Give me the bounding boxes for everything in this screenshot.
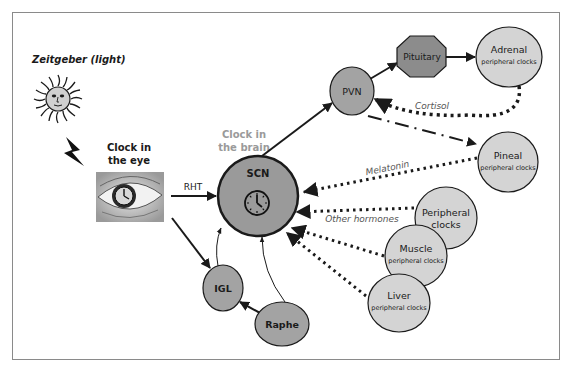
rht-label: RHT <box>184 182 203 192</box>
raphe-label: Raphe <box>265 319 299 330</box>
adrenal-node: Adrenal peripheral clocks <box>476 27 542 87</box>
pituitary-label: Pituitary <box>403 52 441 62</box>
circadian-diagram: Zeitgeber (light) Clock in the eye <box>0 0 571 377</box>
pituitary-node: Pituitary <box>397 36 446 77</box>
other-hormones-label: Other hormones <box>325 214 399 224</box>
peripheral-label-line2: clocks <box>431 219 460 230</box>
pineal-sublabel: peripheral clocks <box>480 164 536 172</box>
eye-clock-icon <box>96 172 164 222</box>
muscle-sublabel: peripheral clocks <box>388 257 444 265</box>
liver-label: Liver <box>387 290 410 301</box>
igl-label: IGL <box>214 283 231 294</box>
pineal-node: Pineal peripheral clocks <box>478 132 538 192</box>
clock-brain-label-line2: the brain <box>218 142 270 153</box>
zeitgeber-label: Zeitgeber (light) <box>31 54 126 65</box>
liver-sublabel: peripheral clocks <box>371 304 427 312</box>
liver-node: Liver peripheral clocks <box>368 274 430 332</box>
raphe-node: Raphe <box>255 302 309 346</box>
scn-label: SCN <box>247 168 270 179</box>
clock-eye-label-line1: Clock in <box>107 142 151 153</box>
adrenal-label: Adrenal <box>491 44 527 55</box>
pineal-label: Pineal <box>494 150 523 161</box>
adrenal-sublabel: peripheral clocks <box>481 58 537 66</box>
muscle-label: Muscle <box>400 243 433 254</box>
cortisol-label: Cortisol <box>415 101 450 111</box>
pvn-label: PVN <box>342 86 361 97</box>
clock-brain-label-line1: Clock in <box>222 129 266 140</box>
pvn-node: PVN <box>330 67 374 115</box>
clock-icon <box>245 191 269 215</box>
scn-node: SCN <box>218 156 298 236</box>
clock-eye-label-line2: the eye <box>108 155 150 166</box>
peripheral-label-line1: Peripheral <box>422 207 470 218</box>
igl-node: IGL <box>203 265 243 311</box>
